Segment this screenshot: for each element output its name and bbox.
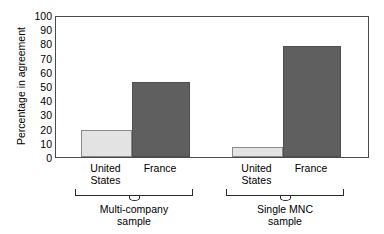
category-label-group0-france: France <box>123 162 197 174</box>
y-tick-label-50: 50 <box>0 82 52 92</box>
bar-group0-france <box>132 82 190 157</box>
group-bracket-notch-0 <box>129 195 140 201</box>
y-tick-label-90: 90 <box>0 25 52 35</box>
y-tick-label-30: 30 <box>0 110 52 120</box>
group-label-line1: Single MNC <box>206 203 364 215</box>
y-axis-tick-labels: 1009080706050403020100 <box>0 0 52 234</box>
y-tick-label-70: 70 <box>0 54 52 64</box>
bar-group0-united-states <box>81 130 132 157</box>
category-label-line2: States <box>223 174 290 186</box>
category-label-group1-france: France <box>274 162 348 174</box>
y-tick-label-80: 80 <box>0 39 52 49</box>
plot-area <box>55 16 369 158</box>
group-label-line2: sample <box>55 215 213 227</box>
y-tick-label-60: 60 <box>0 68 52 78</box>
plot-inner <box>56 17 368 157</box>
group-label-0: Multi-companysample <box>55 203 213 227</box>
bar-group1-united-states <box>232 147 283 157</box>
group-bracket-notch-1 <box>280 195 291 201</box>
y-tick-label-40: 40 <box>0 96 52 106</box>
y-tick-label-100: 100 <box>0 11 52 21</box>
y-tick-label-20: 20 <box>0 125 52 135</box>
y-tick-label-10: 10 <box>0 139 52 149</box>
category-label-line1: France <box>274 162 348 174</box>
group-label-line1: Multi-company <box>55 203 213 215</box>
category-label-line2: States <box>72 174 139 186</box>
y-tick-label-0: 0 <box>0 153 52 163</box>
group-bracket-0 <box>75 189 193 196</box>
bar-chart-figure: Percentage in agreement 1009080706050403… <box>0 0 384 234</box>
group-bracket-1 <box>226 189 344 196</box>
group-label-1: Single MNCsample <box>206 203 364 227</box>
category-label-line1: France <box>123 162 197 174</box>
group-label-line2: sample <box>206 215 364 227</box>
bar-group1-france <box>283 46 341 157</box>
